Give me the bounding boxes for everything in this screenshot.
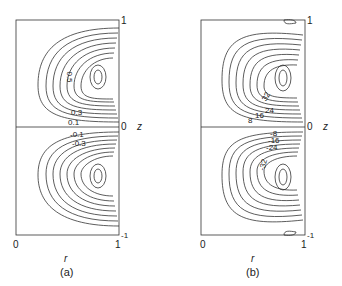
z-tick: 0 — [307, 122, 313, 132]
z-tick: 0 — [121, 122, 127, 132]
z-axis-label: z — [323, 122, 328, 132]
panel-b-bottom-contours — [222, 132, 303, 222]
r-tick: 0 — [13, 240, 19, 250]
z-tick: 1 — [307, 16, 313, 26]
z-tick: 1 — [121, 16, 127, 26]
z-tick: -1 — [307, 231, 314, 241]
r-axis-label: r — [251, 254, 254, 264]
contour-label: 8 — [248, 116, 252, 126]
contour-label: -0.3 — [72, 139, 86, 149]
r-tick: 1 — [301, 240, 307, 250]
contour-label: 16 — [255, 111, 264, 121]
contour-label: 0.1 — [68, 118, 79, 128]
contour-figure — [0, 0, 342, 286]
z-axis-label: z — [137, 122, 142, 132]
caption-a: (a) — [60, 266, 73, 278]
caption-b: (b) — [246, 266, 259, 278]
contour-label: 24 — [265, 106, 274, 116]
contour-label: -24 — [266, 143, 278, 153]
r-axis-label: r — [64, 254, 67, 264]
panel-b-top-contours — [222, 33, 303, 122]
contour-label: 0.3 — [71, 108, 82, 118]
panel-b-frame — [201, 20, 305, 235]
z-tick: -1 — [121, 231, 128, 241]
r-tick: 0 — [200, 240, 206, 250]
contour-label: 0.5 — [64, 71, 74, 82]
r-tick: 1 — [115, 240, 121, 250]
